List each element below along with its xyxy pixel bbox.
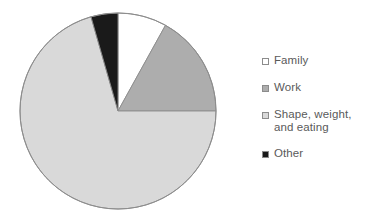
pie-svg xyxy=(0,0,240,218)
legend-label-work: Work xyxy=(274,81,301,94)
pie-slice-group xyxy=(20,13,216,209)
legend-item-family[interactable]: Family xyxy=(262,54,375,67)
pie-chart-figure: Family Work Shape, weight, and eating Ot… xyxy=(0,0,375,218)
legend-item-shape-weight-and-eating[interactable]: Shape, weight, and eating xyxy=(262,108,375,134)
legend-label-other: Other xyxy=(274,147,303,160)
legend-swatch-family xyxy=(262,58,269,65)
legend-item-work[interactable]: Work xyxy=(262,81,375,94)
legend-swatch-other xyxy=(262,151,269,158)
legend-label-family: Family xyxy=(274,54,308,67)
legend-swatch-shape-weight-and-eating xyxy=(262,112,269,119)
pie-plot-area xyxy=(0,0,240,218)
legend-swatch-work xyxy=(262,85,269,92)
legend-label-shape-weight-and-eating: Shape, weight, and eating xyxy=(274,108,351,134)
legend-item-other[interactable]: Other xyxy=(262,147,375,160)
chart-legend: Family Work Shape, weight, and eating Ot… xyxy=(262,54,375,174)
